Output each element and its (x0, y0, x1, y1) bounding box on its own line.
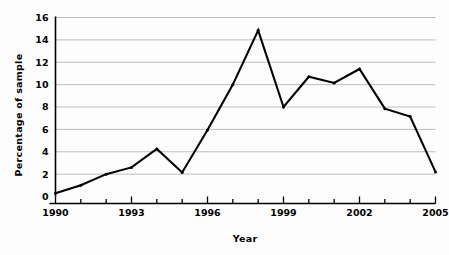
x-tick-label: 1999 (270, 207, 296, 218)
x-tick-label: 2002 (346, 207, 372, 218)
line-chart: 0246810121416 199019931996199920022005 P… (0, 0, 449, 255)
data-point-marker (231, 83, 234, 86)
y-tick-label: 4 (42, 146, 49, 157)
data-point-marker (333, 81, 336, 84)
x-tick-label: 1993 (118, 207, 144, 218)
data-point-marker (206, 128, 209, 131)
data-point-markers (54, 29, 437, 195)
data-point-marker (155, 147, 158, 150)
data-point-marker (409, 115, 412, 118)
chart-canvas: 0246810121416 199019931996199920022005 P… (0, 0, 449, 255)
data-point-marker (54, 192, 57, 195)
data-point-marker (105, 173, 108, 176)
series-polyline (56, 30, 436, 193)
y-axis-title: Percentage of sample (13, 54, 24, 177)
data-point-marker (307, 75, 310, 78)
y-tick-label: 8 (42, 101, 49, 112)
x-tick-label: 2005 (422, 207, 448, 218)
y-tick-label: 0 (42, 191, 49, 202)
data-point-marker (79, 184, 82, 187)
x-axis (50, 197, 436, 204)
data-series-line (56, 30, 436, 193)
x-tick-labels: 199019931996199920022005 (42, 207, 448, 218)
data-point-marker (130, 166, 133, 169)
y-tick-labels: 0246810121416 (35, 12, 49, 202)
y-tick-label: 14 (35, 34, 49, 45)
data-point-marker (358, 67, 361, 70)
x-axis-title: Year (232, 233, 258, 244)
data-point-marker (383, 107, 386, 110)
y-tick-label: 16 (35, 12, 49, 23)
x-tick-label: 1996 (194, 207, 221, 218)
gridlines (56, 18, 436, 197)
data-point-marker (282, 106, 285, 109)
y-tick-label: 6 (42, 124, 49, 135)
data-point-marker (434, 170, 437, 173)
data-point-marker (257, 29, 260, 32)
data-point-marker (181, 171, 184, 174)
y-tick-label: 10 (35, 79, 49, 90)
y-tick-label: 2 (42, 169, 49, 180)
x-tick-label: 1990 (42, 207, 69, 218)
y-tick-label: 12 (35, 57, 48, 68)
